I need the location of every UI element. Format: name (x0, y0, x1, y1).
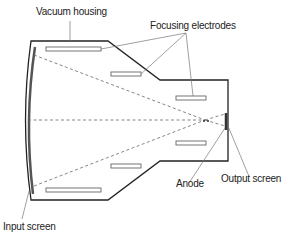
electrode-bottom-3 (176, 141, 206, 145)
electrode-top-3 (176, 96, 206, 100)
leader-electrode-3 (186, 33, 193, 96)
vacuum-housing-outline (26, 41, 229, 200)
leader-anode (189, 128, 225, 183)
label-vacuum-housing: Vacuum housing (36, 6, 107, 17)
leader-electrode-2 (141, 33, 186, 74)
label-anode: Anode (176, 178, 204, 189)
electrode-bottom-2 (111, 164, 141, 168)
electrode-top-2 (111, 72, 141, 76)
image-intensifier-diagram (0, 0, 284, 239)
label-focusing-electrodes: Focusing electrodes (150, 20, 236, 31)
input-screen (29, 47, 35, 194)
leader-input-screen (22, 191, 29, 219)
label-input-screen: Input screen (3, 221, 56, 232)
leader-electrode-1 (101, 33, 186, 49)
label-output-screen: Output screen (221, 173, 281, 184)
leader-output-screen (228, 126, 248, 174)
electrode-bottom-1 (46, 188, 101, 192)
electrode-top-1 (46, 47, 101, 51)
